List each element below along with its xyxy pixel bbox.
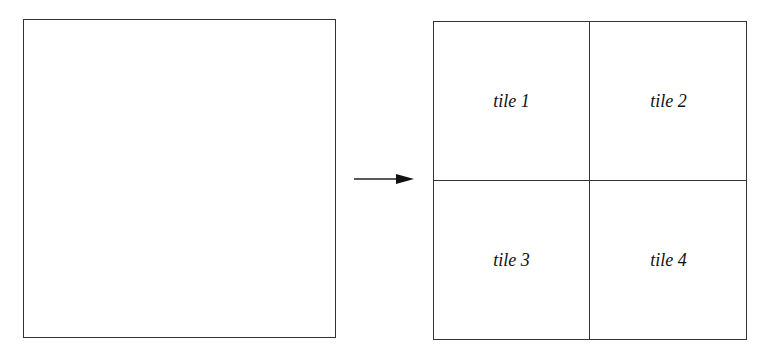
- tile-label: tile 1: [493, 91, 530, 112]
- tiled-image-box: tile 1 tile 2 tile 3 tile 4: [433, 21, 747, 340]
- tile-label: tile 3: [493, 250, 530, 271]
- arrow-right-icon: [354, 172, 416, 186]
- tile-1: tile 1: [434, 22, 589, 180]
- tile-label: tile 2: [650, 91, 687, 112]
- tile-2: tile 2: [590, 22, 747, 180]
- source-image-box: [23, 19, 336, 338]
- tile-3: tile 3: [434, 181, 589, 339]
- tile-4: tile 4: [590, 181, 747, 339]
- tile-label: tile 4: [650, 250, 687, 271]
